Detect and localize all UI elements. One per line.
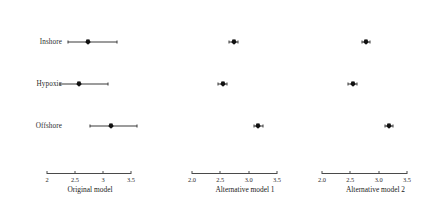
data-point-inshore [363, 39, 369, 45]
x-axis-tick-label: 2.0 [318, 176, 326, 183]
error-bar-cap-hypoxic-low [218, 83, 219, 86]
x-axis-tick [322, 171, 323, 174]
error-bar-cap-hypoxic-low [59, 83, 60, 86]
error-bar-cap-inshore-high [117, 41, 118, 44]
x-axis-tick-label: 3.5 [127, 176, 135, 183]
x-axis-line [47, 173, 131, 174]
data-point-inshore [231, 39, 237, 45]
x-axis-tick-label: 2 [45, 176, 48, 183]
x-axis-tick [192, 171, 193, 174]
x-axis-tick-label: 3 [101, 176, 104, 183]
x-axis-line [322, 173, 407, 174]
x-axis-tick [103, 171, 104, 174]
category-label-hypoxic: Hypoxic [37, 80, 62, 88]
x-axis-tick [248, 171, 249, 174]
error-bar-cap-inshore-high [238, 41, 239, 44]
panel-alternative-model-1: 2.02.53.03.5Alternative model 1 [180, 0, 310, 202]
data-point-hypoxic [350, 81, 356, 87]
data-point-offshore [386, 123, 392, 129]
error-bar-cap-offshore-high [136, 125, 137, 128]
x-axis-tick-label: 3.0 [245, 176, 253, 183]
x-axis-tick [350, 171, 351, 174]
x-axis-tick-label: 3.5 [273, 176, 281, 183]
data-point-inshore [85, 39, 91, 45]
x-axis-tick-label: 3.0 [375, 176, 383, 183]
error-bar-cap-offshore-high [393, 125, 394, 128]
data-point-offshore [255, 123, 261, 129]
error-bar-cap-offshore-high [262, 125, 263, 128]
error-bar-cap-hypoxic-high [227, 83, 228, 86]
x-axis-tick-label: 2.5 [71, 176, 79, 183]
error-bar-cap-inshore-high [370, 41, 371, 44]
error-bar-cap-offshore-low [253, 125, 254, 128]
x-axis-title: Original model [0, 185, 180, 194]
forest-plot-figure: InshoreHypoxicOffshore22.533.5Original m… [0, 0, 441, 202]
category-label-inshore: Inshore [40, 38, 62, 46]
x-axis-tick [277, 171, 278, 174]
error-bar-cap-offshore-low [89, 125, 90, 128]
x-axis-title: Alternative model 1 [180, 185, 310, 194]
x-axis-tick-label: 2.5 [216, 176, 224, 183]
x-axis-tick-label: 3.5 [403, 176, 411, 183]
data-point-hypoxic [220, 81, 226, 87]
category-label-offshore: Offshore [36, 122, 62, 130]
x-axis-tick [407, 171, 408, 174]
x-axis-tick [378, 171, 379, 174]
x-axis-tick-label: 2.0 [188, 176, 196, 183]
error-bar-inshore [68, 42, 117, 43]
x-axis-tick-label: 2.5 [346, 176, 354, 183]
error-bar-cap-inshore-low [361, 41, 362, 44]
x-axis-tick [220, 171, 221, 174]
error-bar-cap-hypoxic-high [108, 83, 109, 86]
data-point-offshore [109, 123, 115, 129]
plot-area: InshoreHypoxicOffshore22.533.5Original m… [0, 0, 180, 202]
x-axis-tick [131, 171, 132, 174]
error-bar-cap-inshore-low [67, 41, 68, 44]
data-point-hypoxic [76, 81, 82, 87]
plot-area: 2.02.53.03.5Alternative model 2 [310, 0, 441, 202]
x-axis-tick [47, 171, 48, 174]
error-bar-cap-inshore-low [229, 41, 230, 44]
error-bar-cap-hypoxic-low [348, 83, 349, 86]
panel-alternative-model-2: 2.02.53.03.5Alternative model 2 [310, 0, 441, 202]
error-bar-hypoxic [60, 84, 108, 85]
panel-original-model: InshoreHypoxicOffshore22.533.5Original m… [0, 0, 180, 202]
error-bar-cap-hypoxic-high [357, 83, 358, 86]
plot-area: 2.02.53.03.5Alternative model 1 [180, 0, 310, 202]
x-axis-title: Alternative model 2 [310, 185, 441, 194]
x-axis-tick [75, 171, 76, 174]
x-axis-line [192, 173, 277, 174]
